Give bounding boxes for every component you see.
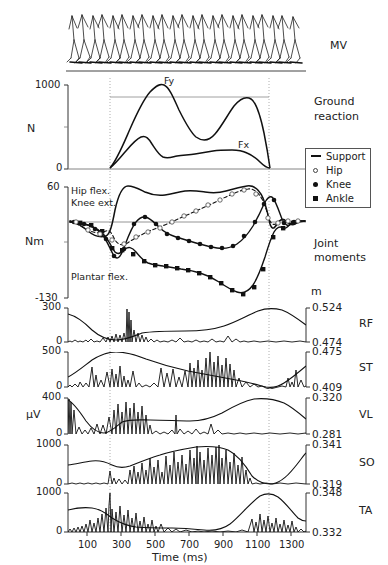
annotation-hip-flex: Hip flex.	[71, 186, 110, 197]
ta-ytick-top: 1000	[36, 486, 61, 498]
ta-ytick-bottom: 0	[56, 525, 62, 537]
xtick-100: 100	[78, 539, 97, 551]
right-axis-unit-m: m	[311, 286, 322, 299]
legend-item-ankle: Ankle	[306, 191, 370, 205]
rf-right-top: 0.524	[312, 301, 342, 313]
panel-label-st: ST	[359, 362, 373, 375]
panel-label-so: SO	[359, 457, 375, 470]
vl-emg-raw	[68, 399, 306, 434]
gait-analysis-figure: MV Ground reaction 1000 0 N Fy Fx 60 -13…	[0, 0, 388, 565]
emg-unit-microvolt: µV	[26, 409, 41, 422]
panel-label-ta: TA	[359, 505, 372, 518]
rf-ytick-top: 300	[42, 301, 61, 313]
panel-label-mv: MV	[330, 40, 347, 53]
grf-unit-N: N	[27, 123, 35, 136]
curve-label-fx: Fx	[238, 140, 249, 151]
annotation-plantar-flex: Plantar flex.	[71, 272, 128, 283]
curve-label-fy: Fy	[164, 76, 174, 87]
xtick-1300: 1300	[279, 539, 304, 551]
panel-emg-rf	[64, 308, 310, 342]
panel-label-ground-reaction-line2: reaction	[314, 111, 359, 124]
legend-label-hip: Hip	[326, 165, 343, 176]
xtick-500: 500	[146, 539, 165, 551]
so-emg-raw	[68, 445, 306, 484]
panel-emg-st	[64, 352, 310, 389]
open-circle-icon	[310, 168, 321, 173]
st-ytick-bottom: 0	[56, 380, 62, 392]
panel-label-ground-reaction-line1: Ground	[314, 96, 354, 109]
legend-label-support: Support	[326, 151, 366, 162]
legend-label-ankle: Ankle	[326, 193, 354, 204]
xtick-1100: 1100	[245, 539, 270, 551]
vl-ytick-bottom: 0	[56, 427, 62, 439]
grf-ytick-0: 0	[56, 162, 62, 174]
filled-circle-icon	[310, 182, 321, 187]
panel-emg-vl	[64, 398, 310, 434]
ta-right-top: 0.348	[312, 486, 342, 498]
moments-ytick-60: 60	[47, 181, 60, 193]
so-right-top: 0.341	[312, 438, 342, 450]
moments-unit-Nm: Nm	[25, 236, 44, 249]
st-right-top: 0.475	[312, 345, 342, 357]
st-ytick-top: 500	[42, 345, 61, 357]
xtick-300: 300	[112, 539, 131, 551]
panel-label-vl: VL	[359, 409, 373, 422]
panel-mv-stickfigures	[67, 15, 302, 63]
xtick-900: 900	[214, 539, 233, 551]
xtick-700: 700	[180, 539, 199, 551]
panel-label-joint-moments-line2: moments	[314, 252, 366, 265]
ta-right-bottom: 0.332	[312, 526, 342, 538]
legend-item-knee: Knee	[306, 177, 370, 191]
so-ytick-top: 1000	[36, 438, 61, 450]
panel-label-rf: RF	[359, 318, 373, 331]
panel-ground-reaction	[64, 84, 306, 169]
filled-square-icon	[310, 196, 321, 201]
legend-item-support: Support	[306, 149, 370, 163]
rf-length-curve	[68, 309, 306, 340]
line-dash-icon	[310, 155, 321, 157]
ta-length-curve	[68, 494, 306, 530]
panel-emg-ta	[64, 493, 310, 536]
vl-ytick-top: 400	[42, 391, 61, 403]
annotation-knee-ext: Knee ext.	[71, 198, 116, 209]
panel-emg-so	[64, 445, 310, 484]
legend-label-knee: Knee	[326, 179, 351, 190]
x-axis-label: Time (ms)	[152, 552, 207, 565]
legend: Support Hip Knee Ankle	[305, 148, 371, 208]
vl-right-top: 0.320	[312, 391, 342, 403]
grf-ytick-1000: 1000	[35, 79, 60, 91]
panel-label-joint-moments-line1: Joint	[314, 238, 338, 251]
x-axis-ticks	[87, 532, 291, 536]
legend-item-hip: Hip	[306, 163, 370, 177]
